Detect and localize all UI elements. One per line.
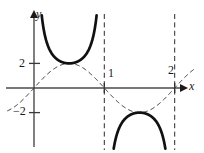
x-tick-label-2: 2 <box>168 64 174 76</box>
y-tick-label-2: 2 <box>19 57 25 69</box>
x-axis-label: x <box>189 80 194 92</box>
cosecant-branch-lower <box>114 113 166 149</box>
cosecant-branch-upper <box>42 15 97 63</box>
y-axis-label: y <box>36 8 41 20</box>
x-tick-label-1: 1 <box>108 67 114 79</box>
y-tick-label-negative-2: −2 <box>13 105 26 117</box>
graph-figure: 2 −2 1 2 y x <box>0 0 204 153</box>
